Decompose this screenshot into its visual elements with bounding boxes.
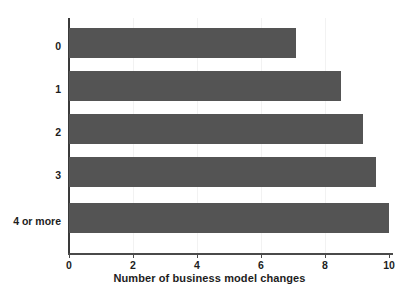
bar-category-0 [69,28,296,58]
x-tick-mark [69,253,70,258]
x-tick-label-0: 0 [66,259,72,271]
x-tick-label-6: 6 [258,259,264,271]
bar-category-1 [69,71,341,101]
bar-category-4-or-more [69,203,389,233]
bar-chart-figure: 0 1 2 3 4 or more 0 2 4 6 8 10 Number of… [0,0,419,292]
y-tick-label-0: 0 [0,41,61,52]
x-tick-mark [197,253,198,258]
x-tick-label-10: 10 [383,259,395,271]
x-tick-label-8: 8 [322,259,328,271]
y-tick-label-4-or-more: 4 or more [0,216,61,227]
x-tick-mark [133,253,134,258]
plot-area [69,18,389,253]
x-axis-line [68,253,393,255]
x-tick-label-2: 2 [130,259,136,271]
y-tick-label-1: 1 [0,84,61,95]
bar-category-2 [69,114,363,144]
y-tick-label-2: 2 [0,127,61,138]
bar-category-3 [69,157,376,187]
x-tick-mark [325,253,326,258]
x-tick-mark [261,253,262,258]
x-tick-mark [389,253,390,258]
x-tick-label-4: 4 [194,259,200,271]
y-tick-label-3: 3 [0,170,61,181]
x-axis-title: Number of business model changes [0,272,419,284]
